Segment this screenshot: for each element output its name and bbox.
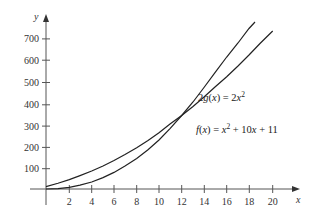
y-tick-label: 300 [24, 121, 39, 132]
y-axis-arrow-icon [43, 14, 49, 22]
y-tick-label: 500 [24, 77, 39, 88]
y-tick-labels: 100 200 300 400 500 600 700 [24, 33, 39, 174]
x-tick-label: 4 [89, 196, 94, 207]
x-tick-label: 2 [67, 196, 72, 207]
x-tick-label: 18 [244, 196, 254, 207]
curve-2gx [46, 22, 255, 189]
x-axis-arrow-icon [292, 186, 300, 192]
x-tick-labels: 2 4 6 8 10 12 14 16 18 20 [67, 196, 278, 207]
y-tick-label: 100 [24, 163, 39, 174]
x-tick-label: 14 [199, 196, 209, 207]
curve-fx [46, 31, 273, 187]
y-tick-label: 600 [24, 55, 39, 66]
x-tick-label: 8 [134, 196, 139, 207]
y-tick-label: 400 [24, 99, 39, 110]
x-tick-label: 20 [268, 196, 278, 207]
y-axis-label: y [33, 11, 39, 22]
curve-label-2gx: 2g(x) = 2x2 [198, 90, 245, 104]
y-tick-label: 700 [24, 33, 39, 44]
x-axis-label: x [295, 194, 301, 205]
x-tick-label: 10 [154, 196, 164, 207]
x-tick-label: 12 [177, 196, 187, 207]
y-tick-label: 200 [24, 142, 39, 153]
curve-label-fx: f(x) = x2 + 10x + 11 [196, 122, 278, 136]
x-tick-label: 16 [222, 196, 232, 207]
x-tick-label: 6 [112, 196, 117, 207]
chart: y x 2 4 6 8 10 12 14 16 18 20 100 20 [0, 0, 310, 221]
